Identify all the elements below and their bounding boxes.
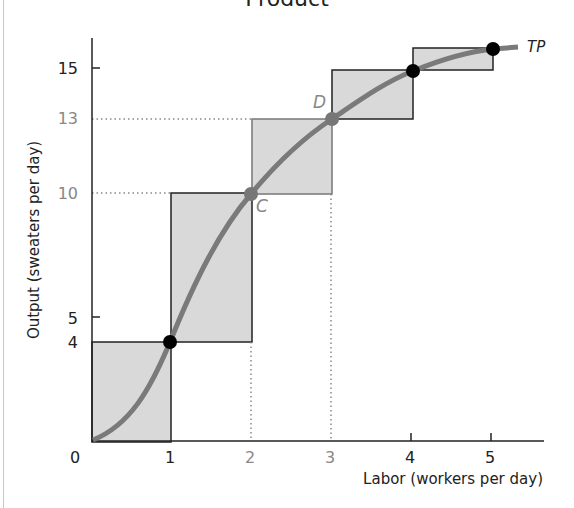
point-1: [163, 335, 177, 349]
point-4: [406, 64, 420, 78]
y-tick-label-15: 15: [48, 59, 78, 78]
tp-label: TP: [527, 38, 545, 56]
x-axis-label: Labor (workers per day): [363, 470, 543, 488]
x-tick-label-4: 4: [395, 448, 425, 467]
point-d: [325, 112, 339, 126]
y-tick-label-4: 4: [48, 333, 78, 352]
point-c-label: C: [256, 196, 268, 216]
x-tick-label-3: 3: [315, 448, 345, 467]
y-tick-label-10: 10: [48, 184, 78, 203]
y-tick-label-13: 13: [48, 109, 78, 128]
mp-box-1: [92, 342, 171, 442]
x-tick-label-1: 1: [155, 448, 185, 467]
origin-label: 0: [60, 448, 90, 467]
chart-plot: [0, 0, 574, 508]
y-axis-label: Output (sweaters per day): [25, 141, 43, 339]
mp-box-2: [171, 193, 252, 342]
point-5: [486, 42, 500, 56]
point-d-label: D: [313, 92, 326, 112]
x-tick-label-2: 2: [235, 448, 265, 467]
y-tick-label-5: 5: [48, 309, 78, 328]
x-tick-label-5: 5: [475, 448, 505, 467]
